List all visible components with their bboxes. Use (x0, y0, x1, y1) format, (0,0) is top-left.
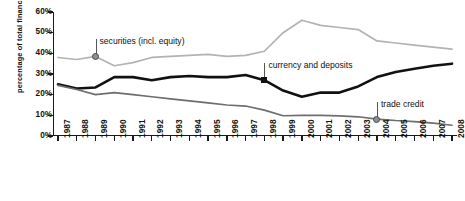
x-tick-label: 2001 (324, 119, 334, 138)
x-tick-label: 1999 (287, 119, 297, 138)
series-line (58, 64, 452, 97)
annotation-label: currency and deposits (268, 61, 352, 70)
x-axis-tick-labels: 1987198819891990199119921993199419951996… (53, 138, 457, 198)
series-lines (53, 12, 457, 136)
x-tick-label: 1995 (212, 119, 222, 138)
x-tick-label: 1990 (118, 119, 128, 138)
x-tick-label: 2003 (362, 119, 372, 138)
x-tick-label: 1992 (155, 119, 165, 138)
x-tick-label: 1998 (268, 119, 278, 138)
x-tick-label: 1988 (80, 119, 90, 138)
annotation-marker (92, 53, 99, 60)
x-tick-label: 2008 (456, 119, 465, 138)
x-tick-label: 1989 (99, 119, 109, 138)
annotation-label: trade credit (381, 100, 424, 109)
x-tick-label: 2004 (381, 119, 391, 138)
x-tick-label: 2002 (343, 119, 353, 138)
annotation-marker (261, 77, 267, 83)
x-tick-label: 2005 (399, 119, 409, 138)
x-tick-label: 1997 (249, 119, 259, 138)
x-tick-label: 1996 (230, 119, 240, 138)
x-tick-label: 2006 (418, 119, 428, 138)
annotation-label: securities (incl. equity) (100, 37, 185, 46)
x-tick-label: 1993 (174, 119, 184, 138)
y-axis-tick-labels: 0%10%20%30%40%50%60% (22, 0, 52, 201)
annotation-marker (373, 116, 380, 123)
plot-area: securities (incl. equity)currency and de… (53, 12, 457, 136)
line-chart: percentage of total financial assets 0%1… (0, 0, 465, 201)
x-tick-label: 1991 (137, 119, 147, 138)
x-tick-label: 1994 (193, 119, 203, 138)
x-tick-label: 1987 (62, 119, 72, 138)
x-tick-label: 2007 (437, 119, 447, 138)
x-tick-label: 2000 (306, 119, 316, 138)
